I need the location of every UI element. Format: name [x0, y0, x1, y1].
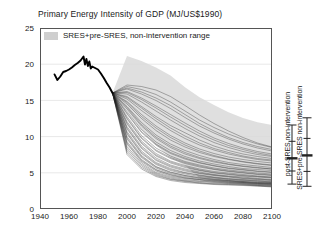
- plot-svg: [40, 28, 272, 209]
- range-bar-sres-pre-sres: [302, 118, 313, 187]
- range-bar-label-post-sres: post-SRES non-intervention: [284, 92, 291, 176]
- range-bar-label-sres-pre-sres: SRES+pre-SRES non-intervention: [296, 86, 303, 190]
- y-axis-tick-10: 10: [12, 133, 34, 142]
- y-axis-tick-25: 25: [12, 24, 34, 33]
- y-axis-tick-5: 5: [12, 169, 34, 178]
- y-axis-tick-15: 15: [12, 97, 34, 106]
- x-axis-tick-2100: 2100: [252, 212, 292, 221]
- historical-energy-intensity-line: [55, 57, 113, 94]
- plot-area: [40, 28, 272, 209]
- page-title: Primary Energy Intensity of GDP (MJ/US$1…: [38, 9, 222, 19]
- y-axis-tick-20: 20: [12, 60, 34, 69]
- chart-figure: Primary Energy Intensity of GDP (MJ/US$1…: [0, 0, 329, 236]
